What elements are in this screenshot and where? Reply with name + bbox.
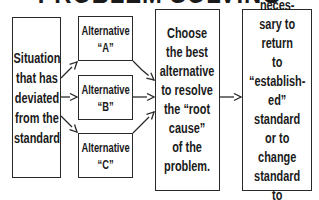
node-choose-best: Choose the best alternative to resolve t…: [155, 9, 220, 191]
node-alternative-c: Alternative “C”: [78, 133, 133, 178]
node-alternative-b-label: Alternative “B”: [81, 81, 129, 115]
arrow-situation-to-c: [61, 116, 77, 132]
node-alternative-c-label: Alternative “C”: [81, 139, 129, 173]
node-alternative-a-label: Alternative “A”: [81, 22, 129, 56]
node-course-of-action-label: Course of action neces- sary to return t…: [249, 0, 305, 200]
node-situation-label: Situation that has deviated from the sta…: [13, 48, 60, 148]
node-course-of-action: Course of action neces- sary to return t…: [242, 9, 312, 191]
arrow-a-to-choose: [133, 61, 154, 80]
arrow-situation-to-a: [61, 62, 77, 78]
node-alternative-b: Alternative “B”: [78, 75, 133, 120]
node-situation: Situation that has deviated from the sta…: [12, 17, 61, 178]
node-alternative-a: Alternative “A”: [78, 16, 133, 61]
node-choose-best-label: Choose the best alternative to resolve t…: [160, 24, 215, 176]
arrow-c-to-choose: [133, 112, 154, 133]
